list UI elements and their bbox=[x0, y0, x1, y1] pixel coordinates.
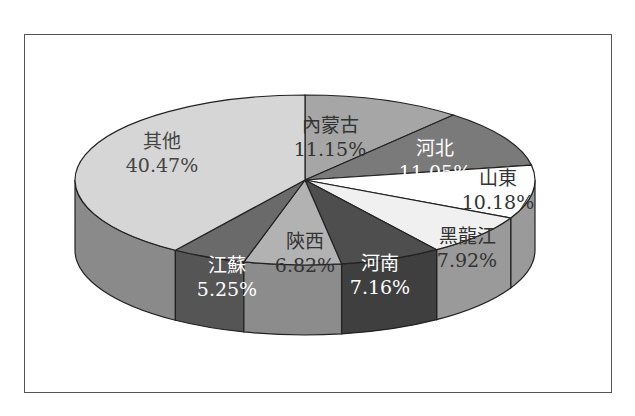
slice-name-label: 陝西 bbox=[286, 230, 324, 252]
slice-name-label: 內蒙古 bbox=[302, 114, 359, 136]
slice-percent-label: 6.82% bbox=[275, 254, 335, 276]
slice-name-label: 其他 bbox=[143, 130, 181, 152]
slice-name-label: 山東 bbox=[479, 167, 517, 189]
pie-chart: 內蒙古11.15%河北11.05%山東10.18%黑龍江7.92%河南7.16%… bbox=[0, 0, 635, 416]
slice-percent-label: 40.47% bbox=[126, 154, 198, 176]
slice-percent-label: 11.05% bbox=[399, 161, 471, 183]
slice-name-label: 河南 bbox=[361, 252, 399, 274]
slice-percent-label: 7.92% bbox=[437, 249, 497, 271]
slice-name-label: 江蘇 bbox=[208, 254, 246, 276]
slice-name-label: 河北 bbox=[416, 137, 454, 159]
slice-percent-label: 5.25% bbox=[197, 278, 257, 300]
slice-name-label: 黑龍江 bbox=[439, 225, 496, 247]
slice-percent-label: 10.18% bbox=[462, 191, 534, 213]
slice-percent-label: 7.16% bbox=[350, 276, 410, 298]
slice-percent-label: 11.15% bbox=[294, 138, 366, 160]
